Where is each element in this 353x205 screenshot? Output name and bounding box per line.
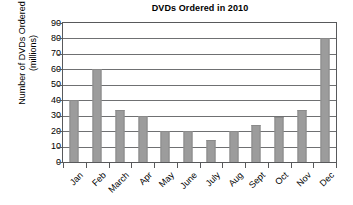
bar bbox=[184, 131, 193, 162]
y-axis-label-line-1: Number of DVDs Ordered bbox=[17, 1, 28, 105]
bar-chart-figure: DVDs Ordered in 2010 Number of DVDs Orde… bbox=[0, 0, 353, 205]
bar bbox=[161, 131, 170, 162]
bar-group bbox=[291, 23, 314, 162]
chart-title: DVDs Ordered in 2010 bbox=[62, 3, 338, 14]
y-tick-mark bbox=[57, 85, 62, 86]
bar bbox=[275, 117, 284, 162]
x-tick-mark bbox=[177, 163, 178, 168]
x-tick-mark bbox=[268, 163, 269, 168]
bars-layer bbox=[63, 23, 336, 162]
x-tick-mark bbox=[154, 163, 155, 168]
y-tick-mark bbox=[57, 100, 62, 101]
x-tick-mark bbox=[86, 163, 87, 168]
bar-group bbox=[245, 23, 268, 162]
bar bbox=[206, 140, 215, 162]
x-tick-mark bbox=[222, 163, 223, 168]
bar-group bbox=[109, 23, 132, 162]
bar bbox=[297, 110, 306, 163]
y-tick-mark bbox=[57, 54, 62, 55]
bar bbox=[70, 100, 79, 162]
bar bbox=[229, 131, 238, 162]
bar-group bbox=[86, 23, 109, 162]
bar-group bbox=[131, 23, 154, 162]
x-tick-mark bbox=[109, 163, 110, 168]
y-tick-mark bbox=[57, 147, 62, 148]
y-axis-label-line-2: (millions) bbox=[28, 35, 39, 71]
bar bbox=[115, 110, 124, 163]
bar bbox=[93, 69, 102, 162]
x-tick-mark bbox=[245, 163, 246, 168]
x-tick-mark bbox=[336, 163, 337, 168]
x-tick-mark bbox=[131, 163, 132, 168]
bar bbox=[252, 125, 261, 162]
y-tick-mark bbox=[57, 162, 62, 163]
bar bbox=[320, 38, 329, 162]
bar-group bbox=[63, 23, 86, 162]
y-tick-mark bbox=[57, 23, 62, 24]
y-tick-mark bbox=[57, 131, 62, 132]
x-tick-mark bbox=[200, 163, 201, 168]
y-tick-mark bbox=[57, 69, 62, 70]
x-tick-mark bbox=[291, 163, 292, 168]
bar-group bbox=[268, 23, 291, 162]
x-tick-mark bbox=[313, 163, 314, 168]
y-tick-mark bbox=[57, 116, 62, 117]
y-tick-mark bbox=[57, 38, 62, 39]
bar-group bbox=[200, 23, 223, 162]
bar bbox=[138, 116, 147, 162]
bar-group bbox=[177, 23, 200, 162]
bar-group bbox=[313, 23, 336, 162]
bar-group bbox=[154, 23, 177, 162]
x-tick-mark bbox=[63, 163, 64, 168]
bar-group bbox=[222, 23, 245, 162]
